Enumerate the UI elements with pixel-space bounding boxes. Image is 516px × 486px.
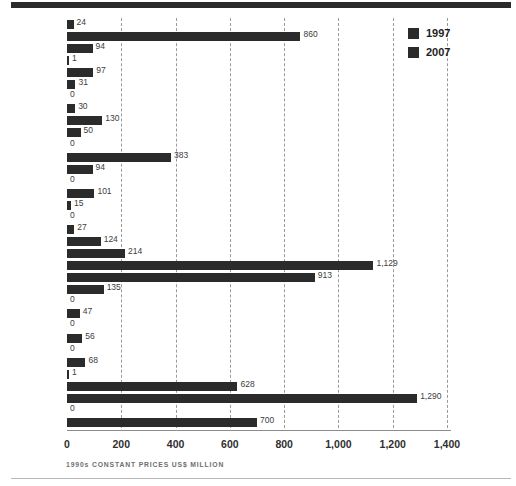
bar-value-label: 94 — [96, 41, 105, 51]
legend-swatch-icon — [408, 28, 419, 39]
x-tick-label: 200 — [113, 438, 131, 450]
bar-2007: 1 — [67, 56, 447, 65]
bar-rect — [67, 273, 315, 282]
bar-rect — [67, 261, 373, 270]
bar-2007: 30 — [67, 104, 447, 113]
bar-value-label: 628 — [240, 379, 254, 389]
axis-caption: 1990s CONSTANT PRICES US$ MILLION — [66, 461, 224, 468]
bar-value-label: 860 — [303, 29, 317, 39]
x-tick-label: 800 — [275, 438, 293, 450]
bar-value-label: 0 — [70, 318, 75, 328]
bar-value-label: 214 — [128, 246, 142, 256]
bottom-divider-rule — [11, 478, 511, 479]
x-axis-baseline — [67, 430, 451, 431]
bar-value-label: 27 — [77, 222, 86, 232]
bar-rect — [67, 153, 171, 162]
bar-row: Cyprus560 — [67, 332, 447, 356]
bar-row: Colombia681 — [67, 356, 447, 380]
bar-value-label: 1 — [72, 367, 77, 377]
bar-rect — [67, 32, 300, 41]
bar-value-label: 15 — [74, 198, 83, 208]
bar-rect — [67, 165, 93, 174]
bar-rect — [67, 68, 93, 77]
bar-1997: 0 — [67, 213, 447, 222]
bar-row: South Korea13050 — [67, 114, 447, 138]
bar-value-label: 913 — [318, 270, 332, 280]
bar-value-label: 97 — [96, 65, 105, 75]
bar-rect — [67, 249, 125, 258]
bar-rect — [67, 237, 101, 246]
x-axis-ticks: 02004006008001,0001,2001,400 — [0, 438, 516, 452]
bar-1997: 94 — [67, 44, 447, 53]
x-tick-label: 1,000 — [325, 438, 351, 450]
legend: 19972007 — [408, 27, 450, 65]
bar-1997: 135 — [67, 285, 447, 294]
bar-rect — [67, 104, 75, 113]
bar-row: Egypt1350 — [67, 283, 447, 307]
bar-value-label: 1,290 — [420, 391, 441, 401]
bar-rect — [67, 80, 75, 89]
bar-value-label: 130 — [105, 113, 119, 123]
bar-value-label: 68 — [88, 355, 97, 365]
bar-2007: 27 — [67, 225, 447, 234]
bar-2007: 0 — [67, 321, 447, 330]
bar-row: Venezuela24860 — [67, 18, 447, 42]
bar-value-label: 56 — [85, 331, 94, 341]
bar-1997: 130 — [67, 116, 447, 125]
bar-rect — [67, 20, 74, 29]
legend-label: 2007 — [426, 46, 450, 58]
bar-1997: 56 — [67, 334, 447, 343]
bar-rect — [67, 56, 69, 65]
bar-2007: 700 — [67, 418, 447, 427]
bar-row: India1,129913 — [67, 259, 447, 283]
legend-item-1997: 1997 — [408, 27, 450, 39]
bar-value-label: 0 — [70, 343, 75, 353]
x-tick-label: 1,400 — [434, 438, 460, 450]
bar-rect — [67, 128, 81, 137]
bar-1997: 628 — [67, 382, 447, 391]
bar-rect — [67, 44, 93, 53]
x-tick-label: 400 — [167, 438, 185, 450]
bar-rect — [67, 418, 257, 427]
bar-1997: 97 — [67, 68, 447, 77]
bar-1997: 24 — [67, 20, 447, 29]
bar-rect — [67, 285, 104, 294]
bar-rect — [67, 309, 80, 318]
bar-row: Kazakhstan10115 — [67, 187, 447, 211]
bar-1997: 68 — [67, 358, 447, 367]
bar-rect — [67, 201, 71, 210]
bar-1997: 0 — [67, 406, 447, 415]
bar-rect — [67, 382, 237, 391]
bar-2007: 31 — [67, 80, 447, 89]
x-tick-label: 600 — [221, 438, 239, 450]
bar-rect — [67, 189, 94, 198]
bar-row: China6281,290 — [67, 380, 447, 404]
bar-1997: 1,129 — [67, 261, 447, 270]
bar-2007: 0 — [67, 177, 447, 186]
x-tick-label: 0 — [64, 438, 70, 450]
bar-2007: 0 — [67, 346, 447, 355]
bar-value-label: 0 — [70, 403, 75, 413]
bar-1997: 0 — [67, 92, 447, 101]
bar-rect — [67, 116, 102, 125]
bar-2007: 15 — [67, 201, 447, 210]
bar-2007: 913 — [67, 273, 447, 282]
legend-item-2007: 2007 — [408, 46, 450, 58]
x-tick-label: 1,200 — [380, 438, 406, 450]
bar-1997: 124 — [67, 237, 447, 246]
chart-page: Venezuela24860Vietnam941UAE9731Syria030S… — [0, 0, 516, 486]
gridline-1400 — [447, 18, 448, 428]
bar-value-label: 101 — [97, 186, 111, 196]
bar-row: Ecuador470 — [67, 307, 447, 331]
bar-2007: 214 — [67, 249, 447, 258]
bar-row: Algeria0700 — [67, 404, 447, 428]
bar-value-label: 50 — [84, 125, 93, 135]
bar-2007: 1 — [67, 370, 447, 379]
bar-value-label: 383 — [174, 150, 188, 160]
bar-value-label: 30 — [78, 101, 87, 111]
bar-value-label: 0 — [70, 174, 75, 184]
bar-value-label: 0 — [70, 210, 75, 220]
bar-value-label: 94 — [96, 162, 105, 172]
bar-2007: 383 — [67, 153, 447, 162]
bar-row: UAE9731 — [67, 66, 447, 90]
